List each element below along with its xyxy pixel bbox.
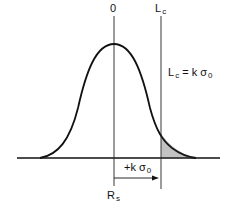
equation-rhs-sub: 0: [208, 71, 212, 80]
limit-top-main: L: [155, 2, 161, 14]
equation-lhs-sub: c: [175, 71, 179, 80]
equation-rhs-main: = k σ: [182, 66, 207, 78]
center-zero-text: 0: [110, 2, 116, 14]
limit-top-label: Lc: [155, 3, 166, 14]
offset-arrowhead-icon: [152, 176, 159, 181]
center-zero-label: 0: [110, 3, 116, 14]
limit-top-sub: c: [162, 7, 166, 16]
rs-main: R: [107, 189, 115, 201]
offset-label: +k σ0: [124, 162, 151, 173]
offset-main: +k σ: [124, 161, 146, 173]
rs-label: Rs: [107, 190, 120, 201]
bell-curve: [40, 44, 196, 158]
diagram-canvas: [0, 0, 232, 209]
equation-label: Lc = k σ0: [168, 67, 212, 78]
equation-lhs-main: L: [168, 66, 174, 78]
rs-sub: s: [116, 194, 120, 203]
offset-sub: 0: [147, 166, 151, 175]
